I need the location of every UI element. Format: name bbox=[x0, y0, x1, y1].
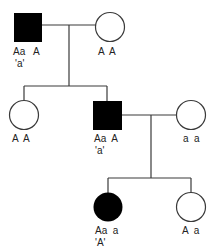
genotype-label-I-2: A A bbox=[98, 47, 116, 57]
phenotype-label-II-2: 'a' bbox=[95, 146, 104, 156]
individual-III-2-female bbox=[177, 193, 206, 222]
genotype-label-II-1: A A bbox=[12, 134, 30, 144]
genotype-label-III-1: Aa a bbox=[95, 226, 118, 236]
genotype-label-III-2: A a bbox=[182, 226, 199, 236]
individual-I-2-female bbox=[96, 13, 125, 42]
genotype-label-I-1: Aa A bbox=[13, 47, 40, 57]
genotype-label-II-3: a a bbox=[183, 134, 200, 144]
individual-II-1-female bbox=[10, 101, 39, 130]
individual-III-1-female-affected bbox=[94, 193, 123, 222]
individual-II-2-male-affected bbox=[93, 101, 122, 130]
individual-II-3-female bbox=[177, 101, 206, 130]
genotype-label-II-2: Aa A bbox=[94, 134, 118, 144]
pedigree-chart bbox=[0, 0, 217, 250]
phenotype-label-III-1: 'A' bbox=[95, 238, 106, 248]
phenotype-label-I-1: 'a' bbox=[15, 59, 24, 69]
individual-I-1-male-affected bbox=[14, 13, 42, 42]
